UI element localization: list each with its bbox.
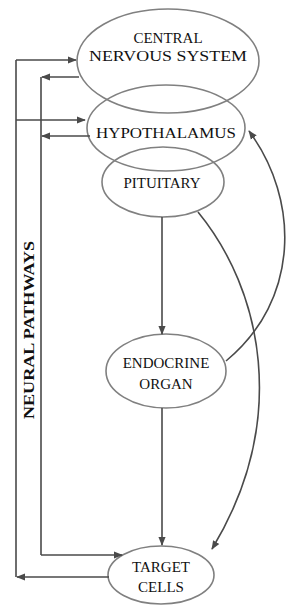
- arrow-endocrine-to-hypothalamus: [226, 131, 285, 361]
- endocrine-label-line1: ENDOCRINE: [123, 355, 210, 371]
- cns-label-line2: NERVOUS SYSTEM: [89, 48, 247, 64]
- hypothalamus-label: HYPOTHALAMUS: [96, 125, 236, 141]
- arrow-pituitary-to-target: [198, 212, 259, 549]
- endocrine-label-line2: ORGAN: [139, 376, 193, 392]
- target-label-line1: TARGET: [132, 559, 190, 575]
- cns-label-line1: CENTRAL: [133, 30, 202, 46]
- node-endocrine-organ: [106, 334, 226, 408]
- neural-pathways-label: NEURAL PATHWAYS: [21, 241, 37, 419]
- pituitary-label: PITUITARY: [123, 175, 200, 191]
- target-label-line2: CELLS: [138, 579, 184, 595]
- endocrine-control-diagram: CENTRAL NERVOUS SYSTEM HYPOTHALAMUS PITU…: [0, 0, 293, 607]
- node-target-cells: [108, 546, 214, 604]
